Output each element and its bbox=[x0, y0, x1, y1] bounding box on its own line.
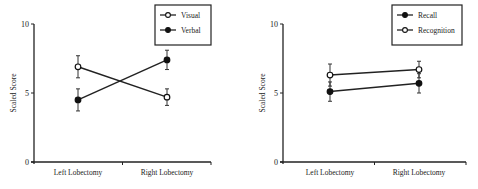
y-tick-label: 10 bbox=[21, 20, 29, 29]
y-tick-label: 5 bbox=[25, 89, 29, 98]
open-circle-marker bbox=[164, 94, 170, 100]
y-tick-label: 0 bbox=[274, 158, 278, 167]
legend-label: Recognition bbox=[418, 26, 455, 35]
filled-circle-marker bbox=[416, 81, 422, 87]
y-tick-label: 0 bbox=[25, 158, 29, 167]
x-category-label: Right Lobectomy bbox=[393, 168, 446, 177]
y-axis-label: Scaled Score bbox=[9, 73, 18, 113]
y-tick-label: 5 bbox=[274, 89, 278, 98]
legend: RecallRecognition bbox=[392, 5, 462, 45]
x-category-label: Left Lobectomy bbox=[54, 168, 103, 177]
charts-figure: 0510Scaled ScoreLeft LobectomyRight Lobe… bbox=[0, 0, 478, 189]
legend: VisualVerbal bbox=[155, 5, 211, 45]
legend-label: Visual bbox=[181, 11, 200, 20]
chart-1: 0510Scaled ScoreLeft LobectomyRight Lobe… bbox=[9, 5, 211, 177]
legend-label: Recall bbox=[418, 11, 437, 20]
filled-circle-marker bbox=[164, 57, 170, 63]
filled-circle-marker bbox=[327, 89, 333, 95]
legend-label: Verbal bbox=[181, 26, 201, 35]
open-circle-marker bbox=[327, 72, 333, 78]
y-tick-label: 10 bbox=[270, 20, 278, 29]
series-verbal bbox=[75, 50, 170, 111]
open-circle-marker bbox=[75, 64, 81, 70]
open-circle-marker bbox=[416, 67, 422, 73]
filled-circle-marker bbox=[75, 97, 81, 103]
series-recall bbox=[327, 74, 422, 102]
y-axis-label: Scaled Score bbox=[258, 73, 267, 113]
x-category-label: Right Lobectomy bbox=[141, 168, 194, 177]
chart-2: 0510Scaled ScoreLeft LobectomyRight Lobe… bbox=[258, 5, 466, 177]
x-category-label: Left Lobectomy bbox=[306, 168, 355, 177]
series-recognition bbox=[327, 61, 422, 86]
